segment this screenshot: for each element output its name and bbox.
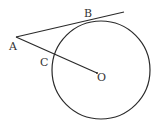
geometry-diagram: A B C O — [0, 0, 155, 123]
label-o: O — [97, 71, 106, 84]
label-c: C — [40, 56, 48, 69]
circle-o — [52, 21, 150, 119]
label-b: B — [84, 7, 92, 20]
label-a: A — [8, 40, 18, 53]
segment-ao — [16, 37, 97, 73]
tangent-line-ab — [16, 12, 124, 37]
